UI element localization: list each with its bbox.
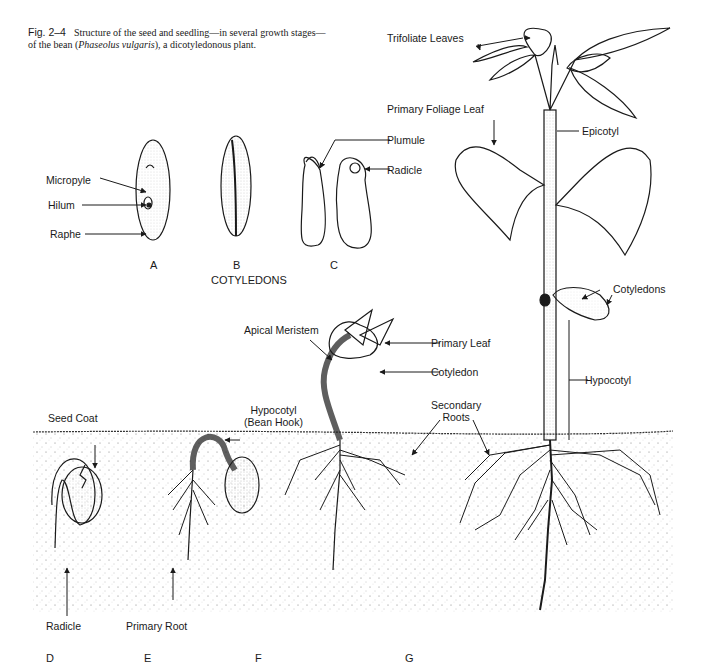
label-secondary-roots: Secondary Roots bbox=[431, 399, 481, 423]
stage-label-a: A bbox=[150, 259, 157, 271]
stage-label-b: B bbox=[233, 259, 240, 271]
label-micropyle: Micropyle bbox=[46, 174, 91, 186]
label-raphe: Raphe bbox=[50, 228, 81, 240]
stage-label-g: G bbox=[405, 652, 414, 664]
label-hypocotyl-e: Hypocotyl (Bean Hook) bbox=[244, 404, 303, 428]
label-primary-root: Primary Root bbox=[126, 620, 187, 632]
label-primary-leaf: Primary Leaf bbox=[431, 337, 491, 349]
label-cotyledon-f: Cotyledon bbox=[431, 366, 478, 378]
label-hypocotyl-g: Hypocotyl bbox=[585, 374, 631, 386]
cotyledons-group-label: COTYLEDONS bbox=[211, 274, 287, 286]
label-primary-foliage-leaf: Primary Foliage Leaf bbox=[387, 103, 484, 115]
label-epicotyl: Epicotyl bbox=[582, 125, 619, 137]
stage-label-e: E bbox=[144, 652, 151, 664]
soil-region bbox=[33, 431, 673, 612]
seed-c bbox=[301, 157, 371, 248]
label-secondary-roots-line1: Secondary bbox=[431, 399, 481, 411]
label-radicle-d: Radicle bbox=[46, 620, 81, 632]
label-trifoliate-leaves: Trifoliate Leaves bbox=[387, 32, 464, 44]
label-radicle-c: Radicle bbox=[387, 164, 422, 176]
seed-b bbox=[221, 136, 251, 236]
label-seed-coat: Seed Coat bbox=[48, 412, 98, 424]
label-hypocotyl-e-line1: Hypocotyl bbox=[244, 404, 303, 416]
label-secondary-roots-line2: Roots bbox=[431, 411, 481, 423]
stage-label-c: C bbox=[330, 259, 338, 271]
label-plumule: Plumule bbox=[387, 134, 425, 146]
stage-label-d: D bbox=[46, 652, 54, 664]
label-apical-meristem: Apical Meristem bbox=[244, 324, 319, 336]
label-hypocotyl-e-line2: (Bean Hook) bbox=[244, 416, 303, 428]
label-hilum: Hilum bbox=[48, 199, 75, 211]
stage-label-f: F bbox=[255, 652, 262, 664]
bean-diagram-art bbox=[0, 0, 709, 671]
label-cotyledons-g: Cotyledons bbox=[613, 283, 666, 295]
